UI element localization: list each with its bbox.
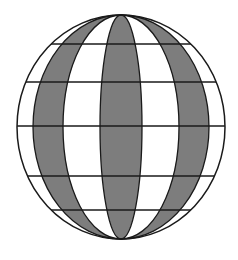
shaded-gores <box>33 15 209 239</box>
globe-diagram <box>0 0 238 260</box>
